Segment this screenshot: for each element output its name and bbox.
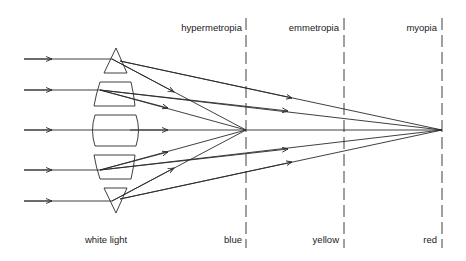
lens-bottom-prism bbox=[104, 188, 127, 213]
label-hypermetropia: hypermetropia bbox=[181, 23, 242, 33]
label-red: red bbox=[423, 235, 437, 245]
label-yellow: yellow bbox=[313, 235, 339, 245]
label-emmetropia: emmetropia bbox=[289, 23, 339, 33]
label-white-light: white light bbox=[85, 235, 127, 245]
label-blue: blue bbox=[224, 235, 242, 245]
chromatic-aberration-diagram bbox=[0, 0, 466, 261]
lens-center-block bbox=[93, 115, 139, 146]
label-myopia: myopia bbox=[406, 23, 437, 33]
